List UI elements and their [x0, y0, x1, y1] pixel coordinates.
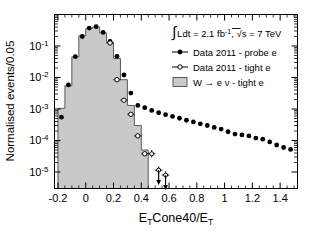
data-point-filled: [142, 105, 147, 110]
data-point-filled: [149, 108, 154, 113]
data-point-filled: [205, 123, 210, 128]
data-point-filled: [198, 121, 203, 126]
figure-root: -0.200.20.40.60.811.21.4 10-110-210-310-…: [0, 0, 311, 235]
data-point-filled: [128, 91, 133, 96]
data-point-open: [136, 134, 140, 138]
data-point-filled: [122, 73, 127, 78]
x-axis-title-mid: Cone40/E: [152, 211, 208, 225]
data-point-filled: [115, 54, 120, 59]
data-point-filled: [288, 147, 293, 152]
data-point-filled: [163, 112, 168, 117]
physics-plot-svg: -0.200.20.40.60.811.21.4 10-110-210-310-…: [0, 0, 311, 235]
data-point-filled: [87, 26, 92, 31]
data-point-filled: [59, 115, 64, 120]
annotation-lumi: Ldt = 2.1 fb: [177, 28, 225, 39]
data-point-open: [108, 41, 112, 45]
data-point-open: [129, 112, 133, 116]
x-tick-label: 0: [83, 192, 89, 204]
data-point-filled: [73, 54, 78, 59]
data-point-filled: [240, 133, 245, 138]
x-tick-label: 1.4: [272, 192, 287, 204]
data-point-filled: [274, 143, 279, 148]
data-point-filled: [233, 132, 238, 137]
legend-marker-filled-circle: [178, 50, 183, 55]
data-point-filled: [226, 129, 231, 134]
data-point-filled: [135, 103, 140, 108]
data-point-filled: [219, 127, 224, 132]
data-point-filled: [184, 118, 189, 123]
x-tick-label: 1.2: [245, 192, 260, 204]
x-tick-label: 0.4: [134, 192, 149, 204]
legend-label: Data 2011 - probe e: [193, 47, 277, 58]
x-axis-title-tail-sub: T: [208, 217, 213, 227]
data-point-filled: [177, 116, 182, 121]
data-point-filled: [260, 137, 265, 142]
data-point-filled: [253, 136, 258, 141]
data-point-filled: [170, 114, 175, 119]
y-axis-title: Normalised events/0.05: [4, 41, 16, 162]
data-point-filled: [191, 119, 196, 124]
data-point-filled: [66, 83, 71, 88]
legend-marker-box: [173, 78, 187, 87]
data-point-open: [143, 152, 147, 156]
data-point-filled: [156, 110, 161, 115]
x-tick-label: -0.2: [48, 192, 67, 204]
x-tick-label: 0.2: [106, 192, 121, 204]
data-point-filled: [247, 134, 252, 139]
x-tick-label: 0.8: [189, 192, 204, 204]
x-tick-label: 1: [222, 192, 228, 204]
legend-label: Data 2011 - tight e: [193, 62, 270, 73]
limit-marker: [150, 152, 154, 156]
y-axis-title-text: Normalised events/0.05: [4, 41, 16, 162]
x-tick-label-layer: -0.200.20.40.60.811.21.4: [48, 192, 287, 204]
data-point-filled: [80, 34, 85, 39]
data-point-open: [115, 78, 119, 82]
data-point-filled: [94, 24, 99, 29]
x-tick-label: 0.6: [161, 192, 176, 204]
data-point-filled: [267, 140, 272, 145]
data-point-filled: [212, 125, 217, 130]
data-point-filled: [281, 145, 286, 150]
legend-marker-open-circle: [178, 65, 182, 69]
data-point-filled: [101, 30, 106, 35]
x-axis-title-lead: E: [139, 211, 147, 225]
data-point-open: [122, 98, 126, 102]
legend-label: W → e ν - tight e: [193, 77, 264, 88]
annotation-energy: , √s = 7 TeV: [231, 28, 282, 39]
